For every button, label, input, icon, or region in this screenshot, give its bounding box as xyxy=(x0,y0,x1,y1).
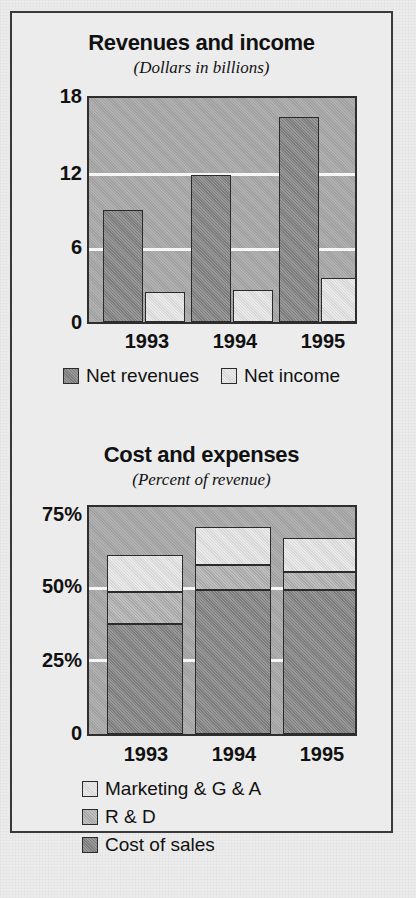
chart-revenues-and-income: Revenues and income (Dollars in billions… xyxy=(12,13,391,403)
segment-marketing-g-and-a-1995 xyxy=(283,538,357,572)
segment-cost-of-sales-1993 xyxy=(107,624,183,734)
legend-swatch-r-and-d-icon xyxy=(82,809,98,825)
xtick-revenues-1993: 1993 xyxy=(102,330,192,353)
ytick-revenues-6: 6 xyxy=(32,236,82,259)
xtick-revenues-1994: 1994 xyxy=(190,330,280,353)
legend-swatch-marketing-g-and-a-icon xyxy=(82,781,98,797)
legend-item-marketing-g-and-a[interactable]: Marketing & G & A xyxy=(82,778,261,800)
legend-item-r-and-d[interactable]: R & D xyxy=(82,806,156,828)
segment-cost-of-sales-1995 xyxy=(283,590,357,734)
segment-marketing-g-and-a-1994 xyxy=(195,527,271,565)
chart-title-revenues: Revenues and income xyxy=(12,31,391,54)
xtick-cost-1993: 1993 xyxy=(98,743,194,766)
segment-cost-of-sales-1994 xyxy=(195,590,271,734)
legend-label-marketing-g-and-a: Marketing & G & A xyxy=(105,778,261,800)
segment-r-and-d-1994 xyxy=(195,565,271,590)
ytick-revenues-0: 0 xyxy=(32,311,82,334)
bar-net-income-1994 xyxy=(233,290,273,322)
legend-label-r-and-d: R & D xyxy=(105,806,156,828)
ytick-revenues-12: 12 xyxy=(32,162,82,185)
segment-r-and-d-1993 xyxy=(107,592,183,624)
chart-subtitle-revenues: (Dollars in billions) xyxy=(12,58,391,78)
legend-label-cost-of-sales: Cost of sales xyxy=(105,834,215,856)
ytick-cost-25: 25% xyxy=(22,649,82,672)
chart-subtitle-cost: (Percent of revenue) xyxy=(12,470,391,490)
ytick-cost-75: 75% xyxy=(22,503,82,526)
legend-label-net-income: Net income xyxy=(244,365,340,387)
legend-item-net-income[interactable]: Net income xyxy=(221,365,340,387)
ytick-cost-0: 0 xyxy=(22,722,82,745)
figure-panel: Revenues and income (Dollars in billions… xyxy=(10,11,393,833)
xtick-cost-1995: 1995 xyxy=(274,743,370,766)
legend-item-net-revenues[interactable]: Net revenues xyxy=(63,365,199,387)
plot-area-revenues xyxy=(87,96,357,324)
bar-net-revenues-1993 xyxy=(103,210,143,322)
bar-net-revenues-1995 xyxy=(279,117,319,322)
legend-item-cost-of-sales[interactable]: Cost of sales xyxy=(82,834,215,856)
legend-swatch-net-revenues-icon xyxy=(63,368,79,384)
bar-net-income-1995 xyxy=(321,278,357,322)
stack-1993 xyxy=(107,555,183,734)
legend-swatch-cost-of-sales-icon xyxy=(82,837,98,853)
segment-r-and-d-1995 xyxy=(283,572,357,590)
xtick-cost-1994: 1994 xyxy=(186,743,282,766)
ytick-cost-50: 50% xyxy=(22,575,82,598)
bar-net-revenues-1994 xyxy=(191,175,231,322)
chart-title-cost: Cost and expenses xyxy=(12,443,391,466)
plot-area-cost xyxy=(87,505,357,736)
stack-1995 xyxy=(283,538,357,734)
ytick-revenues-18: 18 xyxy=(32,85,82,108)
segment-marketing-g-and-a-1993 xyxy=(107,555,183,592)
stack-1994 xyxy=(195,527,271,734)
chart-cost-and-expenses: Cost and expenses (Percent of revenue) 7… xyxy=(12,433,391,833)
xtick-revenues-1995: 1995 xyxy=(278,330,368,353)
legend-swatch-net-income-icon xyxy=(221,368,237,384)
bar-net-income-1993 xyxy=(145,292,185,322)
legend-label-net-revenues: Net revenues xyxy=(86,365,199,387)
legend-revenues: Net revenues Net income xyxy=(12,365,391,387)
